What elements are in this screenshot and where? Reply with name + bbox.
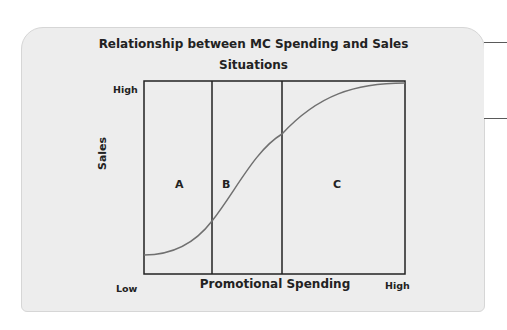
y-axis-label: Sales [96, 137, 109, 170]
region-b-label: B [222, 178, 230, 191]
y-high-label: High [113, 84, 138, 95]
region-c-label: C [333, 178, 341, 191]
x-low-label: Low [116, 283, 137, 294]
sales-curve [144, 83, 405, 255]
region-a-label: A [175, 178, 184, 191]
x-axis-label: Promotional Spending [190, 277, 360, 291]
x-high-label: High [385, 280, 410, 291]
